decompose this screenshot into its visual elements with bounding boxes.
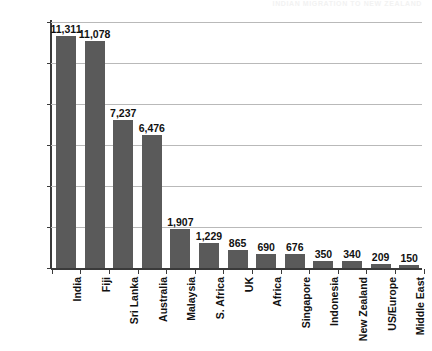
bar-value-label: 1,907 xyxy=(167,216,193,228)
bar-value-label: 150 xyxy=(400,252,418,264)
bar xyxy=(399,265,419,268)
bar xyxy=(342,261,362,268)
bar xyxy=(142,135,162,268)
bar-value-label: 11,311 xyxy=(51,23,82,35)
bar xyxy=(256,254,276,268)
x-axis-tick-mark xyxy=(223,269,224,274)
x-axis-tick-mark xyxy=(166,269,167,274)
y-axis-tick-mark xyxy=(47,145,51,146)
x-axis-category-label: Sri Lanka xyxy=(128,277,140,324)
bar-value-label: 340 xyxy=(343,248,361,260)
y-axis-tick-mark xyxy=(47,63,51,64)
x-axis-tick-mark xyxy=(424,269,425,274)
bar xyxy=(285,254,305,268)
bar xyxy=(371,264,391,268)
x-axis-tick-mark xyxy=(395,269,396,274)
chart-figure: INDIAN MIGRATION TO NEW ZEALAND 02,0004,… xyxy=(0,0,432,351)
x-axis-tick-mark xyxy=(138,269,139,274)
x-axis: IndiaFijiSri LankaAustraliaMalaysiaS. Af… xyxy=(51,269,422,351)
x-axis-category-label: India xyxy=(71,277,83,302)
gridline xyxy=(51,145,422,146)
x-axis-tick-mark xyxy=(366,269,367,274)
x-axis-tick-mark xyxy=(338,269,339,274)
x-axis-category-label: Malaysia xyxy=(185,277,197,321)
gridline xyxy=(51,104,422,105)
x-axis-category-label: US/Europe xyxy=(386,277,398,331)
x-axis-category-label: Indonesia xyxy=(328,277,340,326)
x-axis-category-label: S. Africa xyxy=(214,277,226,319)
bar-value-label: 11,078 xyxy=(79,28,111,40)
x-axis-category-label: Australia xyxy=(157,277,169,322)
bar xyxy=(56,36,76,268)
gridline xyxy=(51,227,422,228)
x-axis-tick-mark xyxy=(195,269,196,274)
bar-value-label: 676 xyxy=(286,241,304,253)
bar-value-label: 865 xyxy=(229,237,247,249)
y-axis-tick-mark xyxy=(47,227,51,228)
bar xyxy=(199,243,219,268)
bar xyxy=(170,229,190,268)
bar xyxy=(85,41,105,268)
x-axis-category-label: Singapore xyxy=(300,277,312,328)
y-axis-tick-mark xyxy=(47,104,51,105)
bar-value-label: 209 xyxy=(372,251,390,263)
bar-value-label: 1,229 xyxy=(196,230,222,242)
x-axis-tick-mark xyxy=(309,269,310,274)
x-axis-category-label: Middle East xyxy=(414,277,426,335)
x-axis-tick-mark xyxy=(252,269,253,274)
x-axis-category-label: New Zealand xyxy=(357,277,369,341)
bar xyxy=(113,120,133,268)
gridline xyxy=(51,186,422,187)
x-axis-category-label: Fiji xyxy=(100,277,112,292)
bar-value-label: 6,476 xyxy=(139,122,165,134)
x-axis-tick-mark xyxy=(281,269,282,274)
bar-value-label: 690 xyxy=(257,241,275,253)
x-axis-tick-mark xyxy=(52,269,53,274)
y-axis-tick-mark xyxy=(47,186,51,187)
x-axis-category-label: UK xyxy=(243,277,255,292)
running-header: INDIAN MIGRATION TO NEW ZEALAND xyxy=(150,0,422,7)
x-axis-tick-mark xyxy=(109,269,110,274)
plot-area: 02,0004,0006,0008,00010,00012,000 11,311… xyxy=(51,22,422,268)
x-axis-category-label: Africa xyxy=(271,277,283,307)
bar xyxy=(228,250,248,268)
gridline xyxy=(51,22,422,23)
bar xyxy=(313,261,333,268)
gridline xyxy=(51,63,422,64)
bar-value-label: 350 xyxy=(315,248,333,260)
bar-value-label: 7,237 xyxy=(110,107,136,119)
x-axis-tick-mark xyxy=(80,269,81,274)
